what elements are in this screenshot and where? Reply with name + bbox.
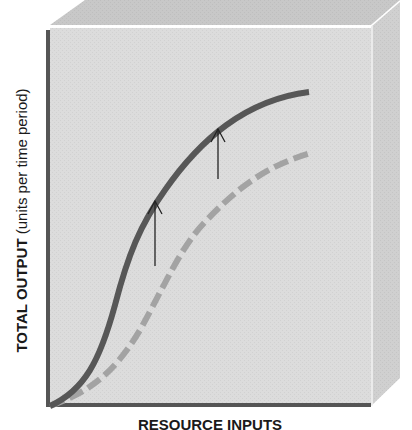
y-axis-label: TOTAL OUTPUT (units per time period) (6, 30, 36, 410)
x-axis-label: RESOURCE INPUTS (50, 416, 370, 430)
total-product-diagram: TOTAL OUTPUT (units per time period) RES… (0, 0, 412, 430)
diagram-svg (0, 0, 412, 430)
y-axis-label-units: (units per time period) (13, 88, 30, 238)
y-axis-label-bold: TOTAL OUTPUT (13, 238, 30, 352)
